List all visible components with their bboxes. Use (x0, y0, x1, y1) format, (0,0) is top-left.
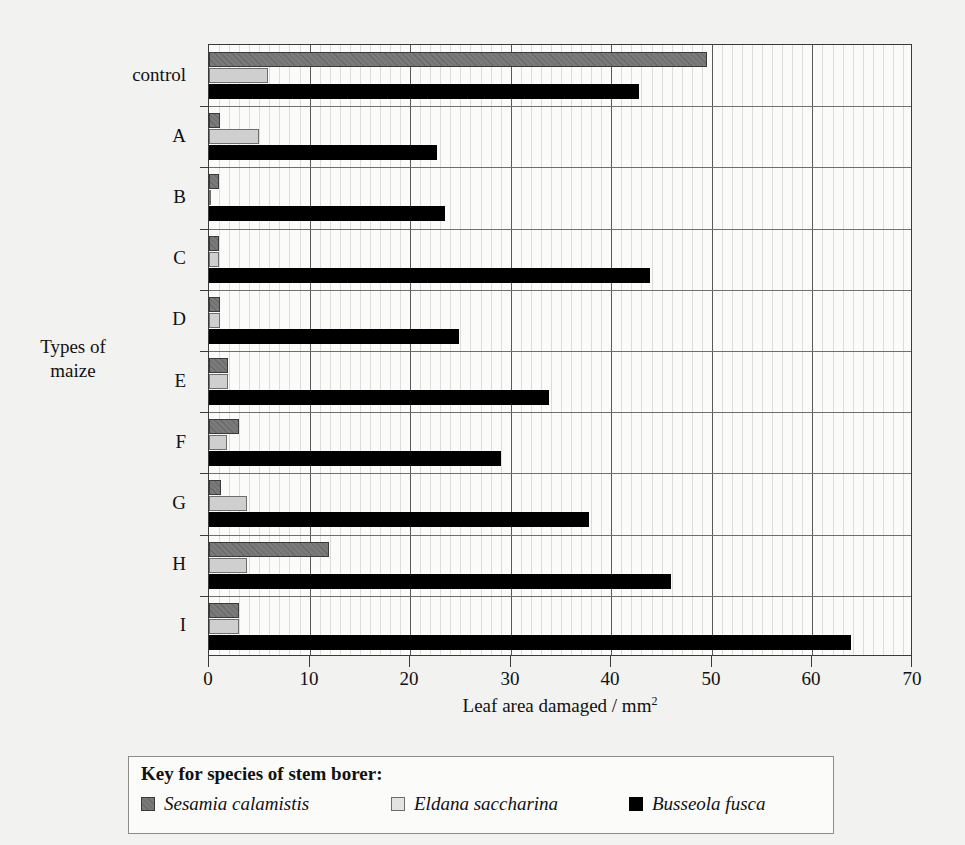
x-axis-title-text: Leaf area damaged / mm (463, 695, 652, 716)
legend-swatch-eldana-icon (391, 797, 405, 811)
bar-eldana-b (209, 190, 211, 205)
x-axis-tick-30 (510, 656, 511, 667)
chart-legend: Key for species of stem borer: Sesamia c… (128, 756, 834, 834)
y-axis-label-h: H (172, 554, 186, 573)
x-axis-title: Leaf area damaged / mm2 (208, 694, 912, 717)
bar-eldana-d (209, 313, 220, 328)
legend-title: Key for species of stem borer: (141, 763, 382, 785)
category-separator (209, 412, 911, 413)
y-axis-tick (200, 473, 209, 474)
y-axis-label-f: F (175, 432, 186, 451)
x-axis-tick-0 (208, 656, 209, 667)
y-axis-tick (200, 167, 209, 168)
x-axis-tick-20 (409, 656, 410, 667)
bar-busseola-a (209, 145, 437, 160)
x-axis-tick-label-50: 50 (702, 668, 721, 690)
category-separator (209, 290, 911, 291)
bar-eldana-f (209, 435, 227, 450)
category-separator (209, 596, 911, 597)
bar-sesamia-c (209, 236, 219, 251)
bar-sesamia-i (209, 603, 239, 618)
category-separator (209, 106, 911, 107)
chart-plot-area (208, 44, 912, 656)
legend-swatch-busseola-icon (629, 797, 643, 811)
y-axis-label-i: I (180, 615, 186, 634)
bar-eldana-i (209, 619, 239, 634)
y-axis-tick (200, 596, 209, 597)
bar-group-a (209, 106, 911, 167)
bar-busseola-d (209, 329, 459, 344)
legend-entry-eldana: Eldana saccharina (391, 793, 558, 815)
bar-sesamia-e (209, 358, 228, 373)
bar-group-f (209, 412, 911, 473)
x-axis-tick-40 (610, 656, 611, 667)
bar-group-b (209, 167, 911, 228)
x-axis-tick-label-0: 0 (203, 668, 213, 690)
x-axis-tick-label-30: 30 (501, 668, 520, 690)
bar-busseola-c (209, 268, 650, 283)
x-axis-tick-50 (711, 656, 712, 667)
y-axis-label-d: D (172, 309, 186, 328)
bar-group-e (209, 351, 911, 412)
category-separator (209, 351, 911, 352)
bar-eldana-h (209, 558, 247, 573)
x-axis-tick-60 (811, 656, 812, 667)
bar-sesamia-g (209, 480, 221, 495)
page-top-crop-artifact (0, 0, 965, 14)
y-axis-label-b: B (173, 187, 186, 206)
bar-eldana-g (209, 496, 247, 511)
bar-rows (209, 45, 911, 655)
bar-busseola-b (209, 206, 445, 221)
y-axis-category-labels: controlABCDEFGHI (40, 44, 198, 656)
y-axis-tick (200, 412, 209, 413)
legend-entry-sesamia: Sesamia calamistis (141, 793, 309, 815)
legend-label-eldana: Eldana saccharina (414, 793, 558, 815)
x-axis-ticks (208, 656, 912, 668)
x-axis-tick-label-40: 40 (601, 668, 620, 690)
bar-busseola-control (209, 84, 639, 99)
x-axis-tick-label-60: 60 (802, 668, 821, 690)
bar-busseola-e (209, 390, 549, 405)
x-axis-tick-10 (309, 656, 310, 667)
category-separator (209, 167, 911, 168)
x-axis-tick-label-70: 70 (903, 668, 922, 690)
bar-sesamia-d (209, 297, 220, 312)
bar-busseola-f (209, 451, 501, 466)
y-axis-tick (200, 106, 209, 107)
bar-sesamia-f (209, 419, 239, 434)
x-axis-tick-label-10: 10 (300, 668, 319, 690)
y-axis-tick (200, 229, 209, 230)
y-axis-tick (200, 351, 209, 352)
bar-busseola-h (209, 574, 671, 589)
x-axis-tick-labels: 010203040506070 (208, 668, 912, 694)
bar-group-g (209, 473, 911, 534)
y-axis-label-a: A (172, 126, 186, 145)
y-axis-label-e: E (174, 371, 186, 390)
y-axis-tick (200, 535, 209, 536)
bar-group-d (209, 290, 911, 351)
legend-entry-busseola: Busseola fusca (629, 793, 765, 815)
x-axis-tick-70 (911, 656, 912, 667)
category-separator (209, 229, 911, 230)
bar-eldana-c (209, 252, 219, 267)
bar-group-control (209, 45, 911, 106)
bar-eldana-control (209, 68, 268, 83)
y-axis-label-control: control (132, 65, 186, 84)
bar-eldana-a (209, 129, 259, 144)
bar-sesamia-b (209, 174, 219, 189)
y-axis-tick (200, 290, 209, 291)
y-axis-label-g: G (172, 493, 186, 512)
bar-busseola-g (209, 512, 589, 527)
bar-sesamia-h (209, 542, 329, 557)
x-axis-tick-label-20: 20 (400, 668, 419, 690)
bar-busseola-i (209, 635, 851, 650)
category-separator (209, 473, 911, 474)
bar-sesamia-control (209, 52, 707, 67)
legend-label-busseola: Busseola fusca (652, 793, 765, 815)
y-axis-label-c: C (173, 248, 186, 267)
bar-eldana-e (209, 374, 228, 389)
category-separator (209, 535, 911, 536)
bar-group-c (209, 229, 911, 290)
legend-label-sesamia: Sesamia calamistis (164, 793, 309, 815)
bar-group-i (209, 596, 911, 657)
